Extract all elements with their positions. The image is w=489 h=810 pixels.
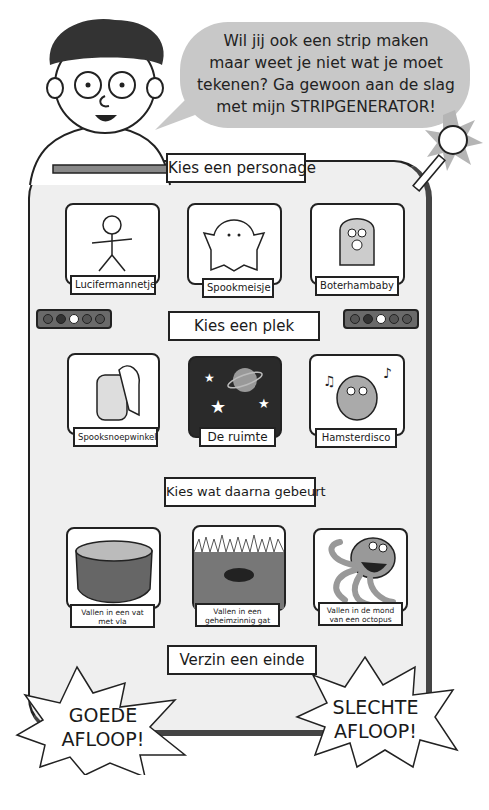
heading-kies-een-plek: Kies een plek xyxy=(168,311,320,341)
option-slechte-afloop[interactable]: SLECHTE AFLOOP! xyxy=(295,655,460,770)
option-hamsterdisco[interactable]: ♫ ♪ xyxy=(309,354,405,436)
heading-kies-wat-daarna-gebeurt: Kies wat daarna gebeurt xyxy=(164,477,316,507)
svg-text:♫: ♫ xyxy=(323,373,336,389)
light-panel-right xyxy=(343,309,419,329)
option-lucifermannetje[interactable] xyxy=(65,203,160,285)
svg-text:♪: ♪ xyxy=(383,365,392,381)
option-boterhambaby[interactable] xyxy=(310,203,405,285)
svg-text:★: ★ xyxy=(204,371,215,385)
option-hamsterdisco-label: Hamsterdisco xyxy=(315,428,397,448)
option-geheimzinnig-gat-label: Vallen in een geheimzinnig gat xyxy=(195,603,280,627)
space-planet-icon: ★ ★ ★ xyxy=(190,358,280,428)
svg-text:★: ★ xyxy=(258,396,270,411)
option-vat-met-vla-label: Vallen in een vat met vla xyxy=(70,604,155,628)
sandwich-baby-icon xyxy=(312,205,403,275)
option-mond-van-een-octopus[interactable] xyxy=(313,528,408,612)
option-goede-afloop[interactable]: GOEDE AFLOOP! xyxy=(15,665,190,775)
option-de-ruimte-label: De ruimte xyxy=(199,427,276,447)
ghost-girl-icon xyxy=(189,205,280,275)
light-bulb-icon xyxy=(395,105,485,195)
option-boterhambaby-label: Boterhambaby xyxy=(315,276,399,296)
ghost-candy-jar-icon xyxy=(69,355,158,425)
option-mond-van-een-octopus-label: Vallen in de mond van een octopus xyxy=(318,602,403,626)
option-spookmeisje[interactable] xyxy=(187,203,282,285)
option-spooksnoepwinkel[interactable] xyxy=(67,353,160,435)
stick-figure-icon xyxy=(67,205,158,275)
option-spooksnoepwinkel-label: Spooksnoepwinkel xyxy=(73,427,158,447)
option-de-ruimte[interactable]: ★ ★ ★ xyxy=(188,356,282,438)
slechte-afloop-text: SLECHTE AFLOOP! xyxy=(323,695,428,743)
option-vat-met-vla[interactable] xyxy=(66,527,161,609)
option-spookmeisje-label: Spookmeisje xyxy=(202,278,274,298)
option-lucifermannetje-label: Lucifermannetje xyxy=(70,275,156,295)
mysterious-hole-icon xyxy=(194,527,284,609)
octopus-icon xyxy=(315,530,406,610)
dancing-hamster-icon: ♫ ♪ xyxy=(311,356,403,426)
svg-text:★: ★ xyxy=(210,396,226,417)
light-panel-left xyxy=(36,309,112,329)
custard-vat-icon xyxy=(68,529,159,607)
option-geheimzinnig-gat[interactable] xyxy=(192,525,286,611)
heading-kies-een-personage: Kies een personage xyxy=(166,153,306,183)
goede-afloop-text: GOEDE AFLOOP! xyxy=(53,703,153,751)
